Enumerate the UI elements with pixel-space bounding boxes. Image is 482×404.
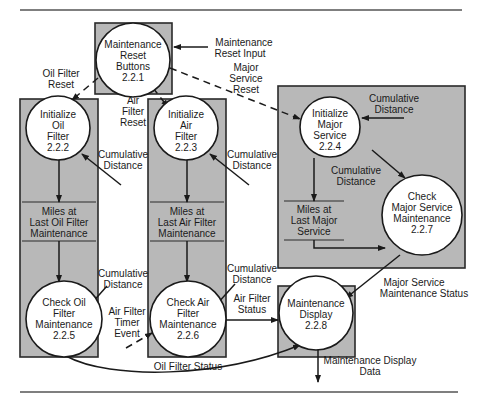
data-flow-diagram: Miles atLast Oil FilterMaintenance Miles… [0, 0, 482, 404]
label-major-service-status: Major ServiceMaintenance Status [380, 277, 468, 299]
label-maintenance-display-data: Maintenance DisplayData [324, 355, 417, 377]
process-2-2-8: MaintenanceDisplay2.2.8 [279, 276, 353, 350]
label-maintenance-reset-input: MaintenanceReset Input [214, 37, 273, 59]
label-cum-dist-air-check: CumulativeDistance [227, 263, 277, 285]
label-air-filter-timer-event: Air FilterTimerEvent [108, 306, 146, 339]
process-2-2-6: Check AirFilterMaintenance2.2.6 [150, 281, 226, 357]
label-cum-dist-major-check: CumulativeDistance [331, 165, 381, 187]
label-oil-filter-reset: Oil FilterReset [42, 68, 80, 90]
label-air-filter-status: Air FilterStatus [233, 293, 271, 315]
process-2-2-4: InitializeMajorService2.2.4 [300, 97, 360, 157]
process-2-2-2: InitializeOilFilter2.2.2 [26, 96, 90, 160]
process-2-2-5: Check OilFilterMaintenance2.2.5 [26, 281, 102, 357]
label-cum-dist-major-init: CumulativeDistance [369, 93, 419, 115]
label-cum-dist-air-init: CumulativeDistance [227, 149, 277, 171]
process-2-2-7: CheckMajor ServiceMaintenance2.2.7 [382, 175, 462, 255]
process-2-2-1: MaintenanceResetButtons2.2.1 [96, 23, 170, 97]
label-air-filter-reset: AirFilterReset [120, 95, 146, 128]
label-cum-dist-oil-init: CumulativeDistance [98, 149, 148, 171]
label-oil-filter-status: Oil Filter Status [154, 361, 222, 372]
label-cum-dist-oil-check: CumulativeDistance [98, 268, 148, 290]
label-major-service-reset: MajorServiceReset [229, 62, 263, 95]
flow-oil-filter-reset [72, 78, 98, 100]
process-2-2-3: InitializeAirFilter2.2.3 [154, 96, 218, 160]
